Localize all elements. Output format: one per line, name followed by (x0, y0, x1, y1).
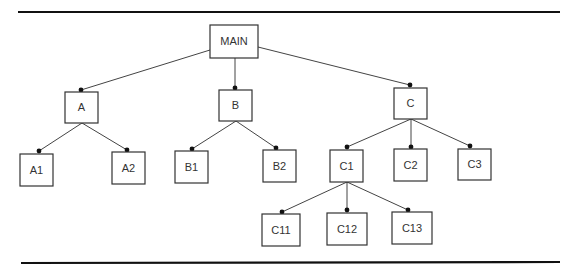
bottom-rule (21, 262, 560, 263)
node-c: C (394, 88, 427, 119)
node-c2: C2 (394, 149, 427, 181)
node-c3: C3 (458, 149, 491, 180)
node-a1: A1 (20, 154, 53, 186)
edge-c1-c13 (347, 182, 408, 210)
edge-c-c3 (411, 119, 470, 146)
node-label: MAIN (220, 35, 248, 47)
edge-a-a2 (82, 123, 127, 150)
node-c12: C12 (327, 213, 367, 245)
node-label: B2 (273, 160, 286, 172)
connector-dot-icon (468, 144, 473, 149)
connector-dot-icon (408, 83, 413, 88)
node-b1: B1 (175, 151, 208, 183)
node-label: C12 (337, 223, 357, 235)
node-b2: B2 (263, 150, 296, 182)
node-label: C2 (403, 159, 417, 171)
edge-c-c1 (347, 119, 411, 147)
node-a2: A2 (112, 152, 145, 184)
node-label: A2 (122, 162, 135, 174)
edge-c1-c11 (282, 182, 347, 212)
node-a: A (65, 92, 98, 123)
node-label: C (407, 97, 415, 109)
node-label: B (232, 99, 239, 111)
node-label: C3 (467, 158, 481, 170)
node-label: A1 (30, 164, 43, 176)
node-label: A (78, 101, 86, 113)
node-c13: C13 (392, 212, 432, 244)
node-label: C11 (271, 224, 290, 236)
node-main: MAIN (210, 25, 258, 58)
nodes-layer: MAINABCA1A2B1B2C1C2C3C11C12C13 (20, 25, 491, 246)
edge-b-b2 (236, 121, 276, 148)
edge-main-a (81, 50, 210, 90)
node-c1: C1 (330, 150, 363, 182)
edge-b-b1 (192, 121, 236, 149)
connector-dot-icon (345, 145, 350, 150)
connector-dot-icon (345, 208, 350, 213)
node-label: C1 (339, 160, 353, 172)
edge-a-a1 (39, 123, 82, 151)
node-c11: C11 (262, 214, 300, 246)
hierarchy-diagram: MAINABCA1A2B1B2C1C2C3C11C12C13 (0, 0, 568, 269)
node-label: C13 (402, 222, 422, 234)
connector-dot-icon (37, 149, 42, 154)
edges-layer (37, 47, 473, 214)
node-label: B1 (185, 161, 198, 173)
edge-main-c (258, 47, 410, 85)
node-b: B (219, 90, 252, 121)
